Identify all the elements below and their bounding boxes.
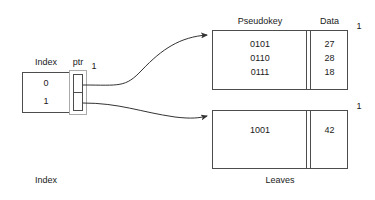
- leaf-bottom-pseudokey-0: 1001: [225, 126, 295, 135]
- leaf-top-pseudokey-0: 0101: [225, 40, 295, 49]
- data-column-header: Data: [311, 17, 348, 26]
- leaf-bottom-depth-badge: 1: [353, 102, 365, 111]
- pointer-arrow-top: [83, 35, 208, 85]
- leaf-top-pseudokey-2: 0111: [225, 68, 295, 77]
- leaves-section-caption: Leaves: [240, 176, 320, 185]
- ptr-depth-badge: 1: [88, 62, 100, 71]
- leaf-top-data-2: 18: [311, 68, 348, 77]
- hash-index-diagram: Index ptr 1 0 1 Index Pseudokey Data 1 0…: [0, 0, 375, 200]
- leaf-top-data-0: 27: [311, 40, 348, 49]
- pointer-arrow-bottom: [83, 103, 208, 118]
- leaf-top-data-1: 28: [311, 54, 348, 63]
- leaf-top-depth-badge: 1: [353, 22, 365, 31]
- leaf-box-bottom: [213, 111, 348, 169]
- leaf-top-pseudokey-1: 0110: [225, 54, 295, 63]
- leaf-bottom-data-0: 42: [311, 126, 348, 135]
- pseudokey-column-header: Pseudokey: [225, 17, 295, 26]
- index-row-key-0: 0: [22, 79, 70, 88]
- index-row-key-1: 1: [22, 97, 70, 106]
- index-section-caption: Index: [22, 176, 70, 185]
